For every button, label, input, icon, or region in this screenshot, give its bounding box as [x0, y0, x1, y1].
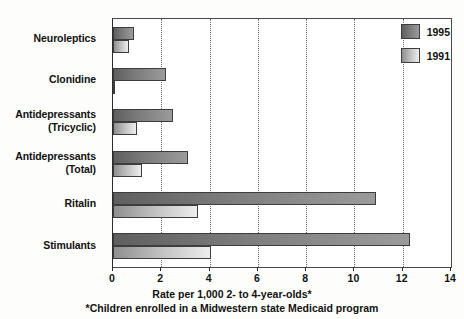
- category-label: Ritalin: [0, 183, 104, 224]
- bar-1995: [113, 68, 166, 81]
- category-label: Clonidine: [0, 59, 104, 100]
- x-tick-label: 4: [206, 272, 212, 284]
- x-axis-label: Rate per 1,000 2- to 4-year-olds*: [0, 288, 464, 300]
- bar-1991: [113, 81, 115, 94]
- x-tick-mark: [450, 267, 451, 271]
- bar-group: [113, 226, 451, 267]
- x-tick-mark: [305, 267, 306, 271]
- bar-1991: [113, 246, 211, 259]
- legend-swatch: [401, 24, 420, 39]
- bar-group: [113, 60, 451, 101]
- bar-1995: [113, 233, 410, 246]
- category-label: Stimulants: [0, 225, 104, 266]
- category-label-line: (Total): [65, 163, 96, 176]
- x-axis: 02468101214: [112, 267, 450, 289]
- bar-1995: [113, 109, 173, 122]
- x-tick-label: 10: [348, 272, 360, 284]
- bar-1991: [113, 40, 129, 53]
- bar-group: [113, 184, 451, 225]
- bar-1991: [113, 164, 142, 177]
- category-label-line: Antidepressants: [15, 108, 96, 121]
- category-label-line: Neuroleptics: [34, 32, 96, 45]
- chart-legend: 19951991: [401, 24, 450, 63]
- x-tick-mark: [402, 267, 403, 271]
- x-tick-mark: [112, 267, 113, 271]
- legend-swatch: [401, 48, 420, 63]
- x-tick-label: 12: [396, 272, 408, 284]
- bar-1995: [113, 27, 134, 40]
- category-label-line: Antidepressants: [15, 150, 96, 163]
- x-tick-mark: [209, 267, 210, 271]
- x-tick-label: 14: [444, 272, 456, 284]
- category-label: Neuroleptics: [0, 18, 104, 59]
- x-tick-label: 2: [157, 272, 163, 284]
- legend-item: 1995: [401, 24, 450, 39]
- legend-label: 1991: [427, 50, 450, 62]
- bar-group: [113, 143, 451, 184]
- bar-1991: [113, 205, 198, 218]
- bar-1995: [113, 192, 376, 205]
- legend-item: 1991: [401, 48, 450, 63]
- x-tick-mark: [353, 267, 354, 271]
- category-label-line: (Tricyclic): [48, 121, 96, 134]
- category-label-line: Clonidine: [49, 73, 96, 86]
- bar-1991: [113, 122, 137, 135]
- x-tick-label: 6: [254, 272, 260, 284]
- category-axis: NeurolepticsClonidineAntidepressants(Tri…: [0, 18, 104, 266]
- bar-chart: NeurolepticsClonidineAntidepressants(Tri…: [0, 0, 464, 319]
- category-label: Antidepressants(Tricyclic): [0, 101, 104, 142]
- bar-group: [113, 102, 451, 143]
- x-tick-mark: [257, 267, 258, 271]
- x-tick-label: 8: [302, 272, 308, 284]
- category-label-line: Ritalin: [65, 197, 96, 210]
- bar-1995: [113, 151, 188, 164]
- chart-footnote: *Children enrolled in a Midwestern state…: [0, 302, 464, 314]
- category-label: Antidepressants(Total): [0, 142, 104, 183]
- category-label-line: Stimulants: [43, 239, 96, 252]
- x-tick-mark: [160, 267, 161, 271]
- x-tick-label: 0: [109, 272, 115, 284]
- legend-label: 1995: [427, 26, 450, 38]
